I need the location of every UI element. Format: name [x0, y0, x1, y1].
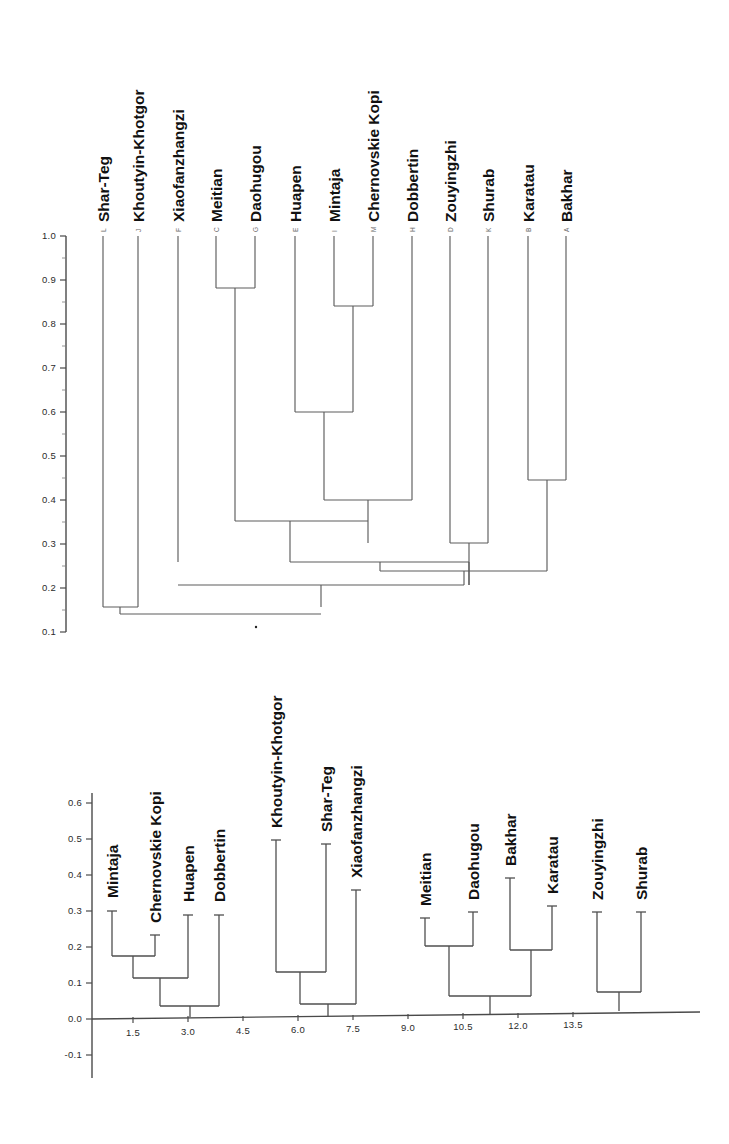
bottom-ytick-7: -0.1: [64, 1049, 82, 1060]
bottom-cluster-4: [592, 912, 646, 1011]
top-leaf-label-10: Shurab: [480, 169, 497, 222]
top-ytick-8: 0.2: [42, 582, 56, 593]
bottom-xtick-4: 7.5: [346, 1023, 360, 1034]
top-y-axis: 1.0 0.9 0.8 0.7 0.6 0.5 0.4 0.3 0.2 0.1: [42, 230, 66, 637]
top-leaf-label-1: Khoutyin-Khotgor: [130, 89, 147, 222]
bottom-ytick-4: 0.2: [68, 941, 82, 952]
bottom-xtick-7: 12.0: [508, 1020, 528, 1031]
top-leaf-label-0: Shar-Teg: [95, 156, 112, 222]
top-leaf-label-7: Chernovskie Kopi: [365, 90, 382, 222]
bottom-xtick-6: 10.5: [453, 1021, 473, 1032]
bottom-y-axis: 0.6 0.5 0.4 0.3 0.2 0.1 0.0 -0.1: [64, 793, 92, 1078]
figure-canvas: 1.0 0.9 0.8 0.7 0.6 0.5 0.4 0.3 0.2 0.1: [0, 0, 729, 1144]
top-leaf-code-8: H: [409, 227, 416, 232]
top-ytick-2: 0.8: [42, 318, 56, 329]
top-leaf-code-12: A: [563, 227, 570, 232]
top-leaf-code-4: G: [252, 227, 259, 232]
bottom-ytick-6: 0.0: [68, 1013, 82, 1024]
top-leaf-code-11: B: [525, 228, 532, 232]
top-leaf-code-3: C: [213, 227, 220, 232]
top-leaf-label-3: Meitian: [208, 169, 225, 222]
top-dendrogram: 1.0 0.9 0.8 0.7 0.6 0.5 0.4 0.3 0.2 0.1: [42, 89, 575, 637]
bottom-xtick-8: 13.5: [563, 1019, 583, 1030]
bottom-leaf-label-5: Shar-Teg: [318, 766, 335, 832]
bottom-leaf-label-2: Huapen: [180, 845, 197, 902]
bottom-ytick-1: 0.5: [68, 833, 82, 844]
top-leaf-code-5: E: [292, 227, 299, 232]
top-leaf-label-6: Mintaja: [326, 168, 343, 222]
bottom-leaf-label-1: Chernovskie Kopi: [147, 791, 164, 923]
top-leaf-label-8: Dobbertin: [404, 149, 421, 222]
top-leaf-stems: [103, 236, 566, 607]
top-leaf-label-4: Daohugou: [247, 145, 264, 222]
bottom-xtick-5: 9.0: [401, 1022, 415, 1033]
top-leaf-labels: Shar-Teg Khoutyin-Khotgor Xiaofanzhangzi…: [95, 89, 575, 222]
dendrogram-figure: 1.0 0.9 0.8 0.7 0.6 0.5 0.4 0.3 0.2 0.1: [0, 0, 729, 1144]
top-leaf-code-6: I: [331, 230, 338, 232]
bottom-dendrogram: 0.6 0.5 0.4 0.3 0.2 0.1 0.0 -0.1: [64, 695, 700, 1078]
top-ytick-6: 0.4: [42, 494, 56, 505]
top-ytick-9: 0.1: [42, 626, 56, 637]
bottom-ytick-5: 0.1: [68, 977, 82, 988]
bottom-leaf-labels: Mintaja Chernovskie Kopi Huapen Dobberti…: [104, 695, 650, 923]
bottom-xtick-1: 3.0: [181, 1026, 195, 1037]
bottom-ytick-2: 0.4: [68, 869, 82, 880]
top-leaf-label-5: Huapen: [287, 165, 304, 222]
bottom-leaf-label-6: Xiaofanzhangzi: [348, 765, 365, 878]
top-ytick-7: 0.3: [42, 538, 56, 549]
bottom-leaf-label-4: Khoutyin-Khotgor: [268, 695, 285, 828]
bottom-cluster-1: [107, 911, 224, 1017]
top-leaf-code-7: M: [370, 227, 377, 232]
top-ytick-1: 0.9: [42, 274, 56, 285]
bottom-xtick-3: 6.0: [291, 1024, 305, 1035]
top-ytick-4: 0.6: [42, 406, 56, 417]
bottom-leaf-label-11: Zouyingzhi: [589, 818, 606, 900]
top-ytick-0: 1.0: [42, 230, 56, 241]
bottom-leaf-label-0: Mintaja: [104, 844, 121, 898]
bottom-xtick-2: 4.5: [236, 1025, 250, 1036]
bottom-xtick-0: 1.5: [126, 1027, 140, 1038]
top-leaf-code-2: F: [175, 228, 182, 232]
top-leaf-code-9: D: [447, 227, 454, 232]
top-ytick-5: 0.5: [42, 450, 56, 461]
top-leaf-label-12: Bakhar: [558, 169, 575, 222]
bottom-leaf-label-3: Dobbertin: [211, 829, 228, 902]
bottom-x-axis: 1.5 3.0 4.5 6.0 7.5 9.0 10.5 12.0 13.5: [92, 1012, 700, 1038]
top-leaf-code-1: J: [135, 229, 142, 232]
top-leaf-code-10: K: [485, 227, 492, 232]
top-merge-links: [103, 288, 566, 614]
top-leaf-label-9: Zouyingzhi: [442, 140, 459, 222]
scan-speck-1: [255, 626, 257, 628]
bottom-leaf-label-10: Karatau: [544, 836, 561, 894]
top-leaf-label-11: Karatau: [520, 164, 537, 222]
top-ytick-3: 0.7: [42, 362, 56, 373]
bottom-leaf-label-12: Shurab: [633, 847, 650, 900]
bottom-ytick-0: 0.6: [68, 797, 82, 808]
bottom-leaf-label-9: Bakhar: [502, 813, 519, 866]
top-leaf-code-0: L: [100, 228, 107, 232]
bottom-leaf-label-7: Meitian: [417, 853, 434, 906]
top-leaf-label-2: Xiaofanzhangzi: [170, 109, 187, 222]
top-leaf-codes: L J F C G E I M H D K B A: [100, 227, 570, 232]
bottom-ytick-3: 0.3: [68, 905, 82, 916]
bottom-leaf-label-8: Daohugou: [465, 823, 482, 900]
bottom-cluster-3: [420, 878, 557, 1014]
